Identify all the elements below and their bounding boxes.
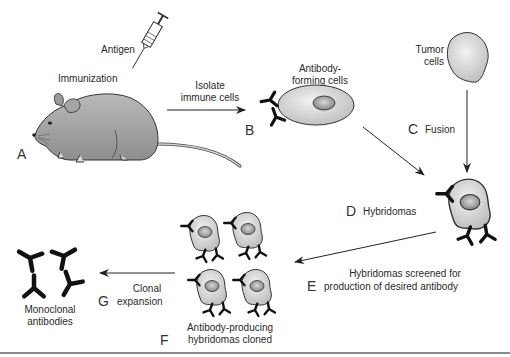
clonal-label-line2: expansion xyxy=(117,296,163,308)
antigen-label: Antigen xyxy=(101,44,135,56)
bottom-rule xyxy=(0,352,510,354)
step-f: F xyxy=(160,333,169,347)
isolate-line2: immune cells xyxy=(175,92,245,104)
cloned-label-line2: hybridomas cloned xyxy=(180,334,280,346)
isolate-line1: Isolate xyxy=(175,80,245,92)
tumor-line1: Tumor xyxy=(406,44,444,56)
cloned-label-line1: Antibody-producing xyxy=(180,322,280,334)
screened-label-line1: Hybridomas screened for xyxy=(320,268,490,280)
antibody-forming-line2: forming cells xyxy=(280,75,360,87)
antibody-forming-label: Antibody- forming cells xyxy=(280,63,360,87)
step-e: E xyxy=(307,279,316,293)
syringe-icon xyxy=(127,12,168,71)
arrow-screened xyxy=(295,232,436,262)
hybridomas-label: Hybridomas xyxy=(363,206,416,218)
screened-label-line2: production of desired antibody xyxy=(324,281,458,293)
monoclonal-antibodies xyxy=(14,241,82,300)
immunization-label: Immunization xyxy=(58,73,117,85)
tumor-cells-label: Tumor cells xyxy=(406,44,444,68)
step-g: G xyxy=(98,294,109,308)
isolate-label: Isolate immune cells xyxy=(175,80,245,104)
monoclonal-line2: antibodies xyxy=(15,316,85,328)
step-a: A xyxy=(17,147,26,161)
step-c: C xyxy=(408,122,418,136)
antibody-forming-cell xyxy=(260,85,354,125)
cloned-hybridomas xyxy=(181,213,275,317)
tumor-line2: cells xyxy=(406,56,444,68)
monoclonal-label: Monoclonal antibodies xyxy=(15,304,85,328)
step-b: B xyxy=(245,123,254,137)
fusion-label: Fusion xyxy=(425,124,455,136)
step-d: D xyxy=(346,204,356,218)
clonal-label-line1: Clonal xyxy=(122,283,172,295)
hybridoma-cell xyxy=(437,179,495,244)
monoclonal-line1: Monoclonal xyxy=(15,304,85,316)
tumor-cell xyxy=(447,33,488,83)
antibody-forming-line1: Antibody- xyxy=(280,63,360,75)
